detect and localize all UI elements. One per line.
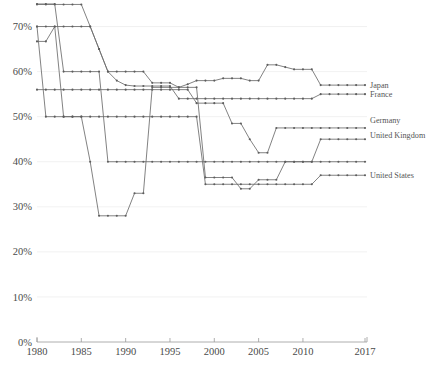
series-line-united-kingdom — [37, 4, 365, 162]
series-marker — [45, 40, 47, 42]
series-marker — [98, 89, 100, 91]
series-marker — [54, 89, 56, 91]
series-marker — [80, 89, 82, 91]
series-marker — [355, 84, 357, 86]
series-line-france — [37, 27, 365, 99]
series-marker — [45, 3, 47, 5]
series-marker — [80, 116, 82, 118]
series-marker — [364, 138, 366, 140]
series-marker — [151, 161, 153, 163]
x-axis-tick-label: 1985 — [71, 346, 92, 357]
series-marker — [328, 93, 330, 95]
series-marker — [320, 161, 322, 163]
series-marker — [196, 86, 198, 88]
series-marker — [187, 161, 189, 163]
series-marker — [89, 25, 91, 27]
series-marker — [213, 98, 215, 100]
series-marker — [45, 25, 47, 27]
series-marker — [116, 80, 118, 82]
series-marker — [266, 161, 268, 163]
series-marker — [266, 152, 268, 154]
series-marker — [364, 161, 366, 163]
legend-label-france: France — [370, 90, 393, 99]
y-axis-tick-label: 30% — [13, 201, 33, 212]
series-marker — [178, 86, 180, 88]
series-marker — [142, 161, 144, 163]
series-marker — [169, 86, 171, 88]
series-marker — [266, 98, 268, 100]
series-marker — [240, 98, 242, 100]
series-marker — [125, 215, 127, 217]
series-marker — [204, 176, 206, 178]
series-marker — [302, 68, 304, 70]
series-marker — [133, 161, 135, 163]
series-marker — [328, 138, 330, 140]
series-marker — [284, 66, 286, 68]
series-marker — [240, 122, 242, 124]
series-marker — [151, 82, 153, 84]
series-marker — [258, 80, 260, 82]
series-marker — [204, 80, 206, 82]
chart-container: 0%10%20%30%40%50%60%70%19801985199019952… — [0, 0, 445, 374]
series-marker — [80, 25, 82, 27]
series-marker — [346, 93, 348, 95]
series-marker — [125, 116, 127, 118]
y-axis-tick-label: 60% — [13, 66, 33, 77]
series-marker — [142, 71, 144, 73]
series-marker — [36, 40, 38, 42]
series-marker — [258, 161, 260, 163]
series-marker — [337, 174, 339, 176]
series-marker — [284, 161, 286, 163]
series-marker — [89, 161, 91, 163]
series-marker — [213, 176, 215, 178]
series-marker — [98, 116, 100, 118]
series-marker — [311, 127, 313, 129]
series-marker — [125, 71, 127, 73]
series-marker — [80, 3, 82, 5]
series-marker — [222, 77, 224, 79]
series-marker — [160, 86, 162, 88]
series-marker — [266, 183, 268, 185]
x-axis-tick-label: 1995 — [159, 346, 180, 357]
series-marker — [328, 84, 330, 86]
series-marker — [222, 98, 224, 100]
series-marker — [178, 116, 180, 118]
series-marker — [311, 183, 313, 185]
series-marker — [311, 161, 313, 163]
series-marker — [116, 215, 118, 217]
series-marker — [275, 183, 277, 185]
series-marker — [160, 82, 162, 84]
series-marker — [275, 64, 277, 66]
series-marker — [275, 179, 277, 181]
series-marker — [36, 25, 38, 27]
series-marker — [355, 174, 357, 176]
series-marker — [222, 176, 224, 178]
series-marker — [204, 102, 206, 104]
series-marker — [364, 174, 366, 176]
series-marker — [249, 188, 251, 190]
x-axis-tick-label: 2017 — [355, 346, 376, 357]
x-axis-tick-label: 1980 — [27, 346, 48, 357]
series-marker — [133, 116, 135, 118]
series-marker — [36, 3, 38, 5]
series-marker — [231, 176, 233, 178]
series-marker — [133, 89, 135, 91]
series-marker — [98, 71, 100, 73]
series-marker — [293, 68, 295, 70]
series-marker — [266, 179, 268, 181]
series-marker — [258, 183, 260, 185]
line-chart: 0%10%20%30%40%50%60%70%19801985199019952… — [0, 0, 445, 374]
series-marker — [231, 183, 233, 185]
x-axis-tick-label: 1990 — [115, 346, 136, 357]
series-marker — [196, 102, 198, 104]
series-marker — [116, 89, 118, 91]
series-marker — [231, 77, 233, 79]
series-marker — [169, 161, 171, 163]
series-marker — [125, 89, 127, 91]
series-marker — [249, 161, 251, 163]
series-marker — [45, 116, 47, 118]
series-marker — [54, 25, 56, 27]
series-marker — [213, 102, 215, 104]
series-marker — [71, 25, 73, 27]
series-marker — [204, 98, 206, 100]
